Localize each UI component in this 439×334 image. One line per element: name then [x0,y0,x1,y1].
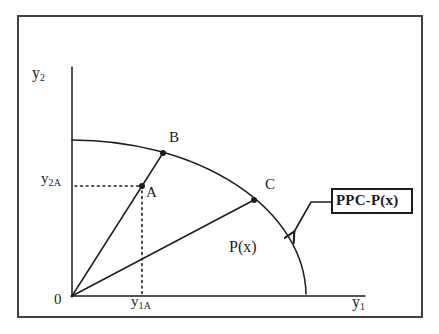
origin-label: 0 [54,291,62,308]
y1a-label-base: y [131,293,139,309]
x-axis-label-sub: 1 [360,301,365,312]
y1a-label-sub: 1A [139,300,152,311]
point-a-label: A [146,184,157,201]
y-axis-label-base: y [32,64,40,81]
point-c-dot [251,197,257,203]
ray-origin-to-b [72,153,163,296]
x-axis-label: y1 [352,293,365,312]
y-axis-label: y2 [32,64,45,83]
y1a-coordinate-label: y1A [131,293,151,311]
point-b-dot [160,150,166,156]
y2a-coordinate-label: y2A [41,170,61,188]
callout-arrow [294,202,331,232]
ray-origin-to-c [72,200,254,296]
ppc-curve [72,140,306,294]
point-b-label: B [169,129,179,146]
y2a-label-sub: 2A [49,177,62,188]
x-axis-label-base: y [352,293,360,310]
ppc-callout-label: PPC-P(x) [336,192,398,208]
ppc-callout-box: PPC-P(x) [331,188,413,214]
point-a-dot [139,183,145,189]
ppc-diagram: y2 y1 0 y2A y1A A B C P(x) PPC-P(x) [0,0,439,334]
region-label: P(x) [229,238,257,256]
y2a-label-base: y [41,170,49,186]
point-c-label: C [265,176,275,193]
plot-canvas [0,0,439,334]
y-axis-label-sub: 2 [40,72,45,83]
